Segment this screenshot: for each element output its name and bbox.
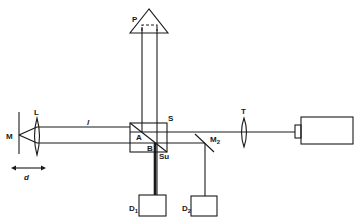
label-s: S: [168, 114, 174, 123]
detector-d1: [139, 195, 166, 216]
label-m2: M2: [210, 135, 221, 145]
label-path-length: l: [87, 118, 90, 127]
laser-nozzle: [295, 125, 301, 138]
label-d: d: [24, 173, 30, 182]
arrowhead-left-icon: [11, 166, 16, 171]
label-t: T: [241, 107, 246, 116]
prism-roof-dashed: [142, 25, 157, 31]
label-p: P: [132, 15, 138, 24]
optical-diagram: M L l d P S A B Su M2 T D1 D2: [0, 0, 358, 223]
label-l: L: [34, 108, 39, 117]
label-d1: D1: [129, 204, 139, 214]
detector-d2: [191, 196, 217, 216]
label-a: A: [136, 133, 142, 142]
arrowhead-right-icon: [41, 166, 46, 171]
lens-l: [35, 118, 40, 155]
label-su: Su: [159, 152, 169, 161]
label-d2: D2: [182, 204, 192, 214]
diagram-canvas: M L l d P S A B Su M2 T D1 D2: [0, 0, 358, 223]
laser-source: [301, 117, 353, 144]
label-b: B: [147, 144, 153, 153]
label-m: M: [6, 132, 13, 141]
